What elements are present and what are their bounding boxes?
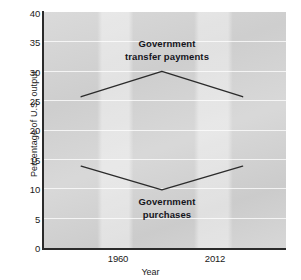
y-tick-30: 30 bbox=[14, 66, 40, 77]
annotation-government-purchases: Government purchases bbox=[108, 196, 226, 221]
y-tick-0: 0 bbox=[14, 243, 40, 254]
gridline-10 bbox=[44, 188, 286, 189]
y-tick-15: 15 bbox=[14, 154, 40, 165]
gridline-15 bbox=[44, 159, 286, 160]
annotation-government-transfer-payments: Government transfer payments bbox=[106, 38, 228, 63]
y-tick-20: 20 bbox=[14, 125, 40, 136]
y-tick-5: 5 bbox=[14, 213, 40, 224]
x-tick-1960: 1960 bbox=[88, 253, 148, 264]
gridline-30 bbox=[44, 71, 286, 72]
gridline-20 bbox=[44, 130, 286, 131]
y-tick-25: 25 bbox=[14, 96, 40, 107]
y-tick-35: 35 bbox=[14, 37, 40, 48]
x-tick-2012: 2012 bbox=[185, 253, 245, 264]
y-tick-40: 40 bbox=[14, 7, 40, 18]
y-axis-spine bbox=[42, 11, 44, 250]
chart-figure: Percentage of U.S. output 0 5 10 15 20 2… bbox=[0, 0, 301, 280]
y-tick-10: 10 bbox=[14, 184, 40, 195]
y-axis-tick-labels: 0 5 10 15 20 25 30 35 40 bbox=[14, 0, 40, 280]
x-axis-title: Year bbox=[0, 267, 301, 277]
x-axis-spine bbox=[42, 248, 286, 250]
gridline-25 bbox=[44, 100, 286, 101]
